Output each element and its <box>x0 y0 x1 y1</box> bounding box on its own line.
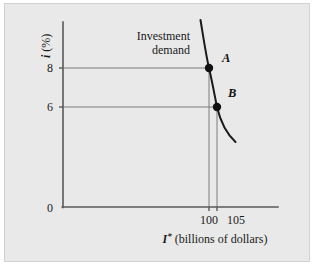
guide-lines-group <box>63 68 217 207</box>
x-axis-title-unit: (billions of dollars) <box>172 232 268 246</box>
x-tick-label-100: 100 <box>200 213 218 227</box>
investment-demand-curve <box>201 20 236 142</box>
data-point-b[interactable] <box>213 103 221 111</box>
y-tick-label-6: 6 <box>47 100 53 114</box>
curve-annotation-line1: Investment <box>137 29 191 43</box>
data-point-label-b: B <box>227 86 236 100</box>
curve-annotation-line2: demand <box>152 43 190 57</box>
y-axis-title-group: i (%) <box>39 34 53 58</box>
x-axis-title: I* (billions of dollars) <box>162 231 268 246</box>
y-axis-title: i (%) <box>39 34 53 58</box>
data-point-label-a: A <box>221 51 230 65</box>
origin-label: 0 <box>47 201 53 215</box>
curve-annotation-group: Investment demand <box>137 29 191 57</box>
data-point-a[interactable] <box>205 64 213 72</box>
figure-container: 8 6 0 100 105 i (%) I* (billions of doll… <box>0 0 318 272</box>
x-tick-label-105: 105 <box>227 213 245 227</box>
y-tick-label-8: 8 <box>47 61 53 75</box>
investment-demand-chart: 8 6 0 100 105 i (%) I* (billions of doll… <box>0 0 318 272</box>
y-axis-title-unit: (%) <box>39 34 53 55</box>
